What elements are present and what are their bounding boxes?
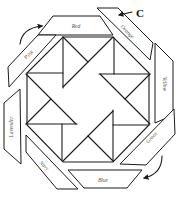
strip-label: Yellow bbox=[162, 77, 168, 92]
strip-red: Red bbox=[38, 16, 113, 35]
central-octagon bbox=[26, 37, 150, 162]
strip-lavender: Lavender bbox=[4, 89, 21, 164]
strip-label: Red bbox=[71, 23, 81, 29]
pattern-line bbox=[125, 74, 150, 99]
octagon-outline bbox=[27, 37, 149, 162]
strip-yellow: Yellow bbox=[155, 43, 173, 123]
pattern-line bbox=[26, 99, 51, 124]
strip-label: Lavender bbox=[8, 116, 14, 139]
strip-pink: Pink bbox=[8, 35, 56, 87]
pattern-line bbox=[88, 136, 113, 161]
strip-shape bbox=[8, 35, 56, 87]
strip-green: Green bbox=[120, 109, 175, 165]
strip-label: Blue bbox=[98, 177, 109, 183]
octagonal-star-quilt-diagram: RedOrangeYellowGreenBlueNavyLavenderPink… bbox=[0, 0, 188, 200]
pattern-line bbox=[63, 37, 88, 62]
strip-blue: Blue bbox=[68, 170, 142, 188]
callout-letter: C bbox=[136, 7, 144, 19]
